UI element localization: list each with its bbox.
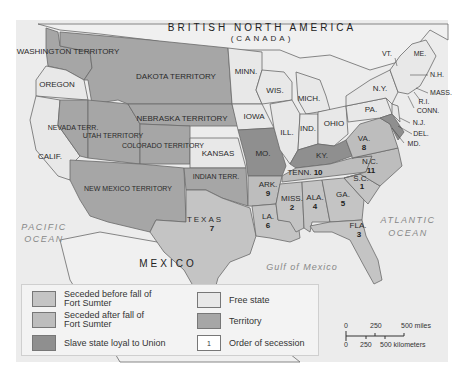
label-wisconsin: WIS. [266,86,283,95]
label-missouri: MO. [255,149,270,158]
label-nevada: NEVADA TERR. [48,124,99,131]
legend-label: Fort Sumter [64,319,112,329]
legend-label: Territory [229,317,262,326]
label-tennessee: TENN. 10 [287,168,323,177]
pacific-label-1: PACIFIC [21,222,66,232]
label-mississippi: MISS. [281,194,303,203]
label-indiana: IND. [300,124,316,133]
legend-item-slave-loyal: Slave state loyal to Union [32,335,166,351]
label-michigan: MICH. [298,94,321,103]
legend-swatch-seceded-after [32,312,56,328]
label-washington: WASHINGTON TERRITORY [17,47,120,56]
label-connecticut: CONN. [417,107,440,114]
heading-north-sub: (CANADA) [231,34,294,43]
region-minnesota [228,48,262,104]
pacific-label-2: OCEAN [24,234,64,244]
label-pennsylvania: PA. [365,105,377,114]
order-georgia: 5 [341,199,346,208]
legend-swatch-seceded-before [32,291,56,307]
label-new-hampshire: N.H. [430,71,444,78]
scale-km-0: 0 [344,341,348,348]
label-texas: TEXAS [187,215,223,224]
label-minnesota: MINN. [235,67,258,76]
label-california: CALIF. [38,152,62,161]
order-arkansas: 9 [266,189,271,198]
region-florida [310,220,382,284]
scale-bar: 0 250 500 miles 0 250 500 kilometers [340,322,450,352]
label-nebraska: NEBRASKA TERRITORY [136,114,228,123]
label-dakota: DAKOTA TERRITORY [136,72,217,81]
scale-miles-500: 500 miles [401,322,431,329]
label-new-jersey: N.J. [413,119,426,126]
label-utah: UTAH TERRITORY [83,132,144,139]
label-alabama: ALA. [306,193,323,202]
label-new-mexico: NEW MEXICO TERRITORY [84,185,172,192]
label-oregon: OREGON [39,80,75,89]
legend-label: Order of secession [229,339,305,348]
order-texas: 7 [210,224,215,233]
legend-item-free-state: Free state [197,292,270,308]
order-alabama: 4 [313,202,318,211]
atlantic-label-1: ATLANTIC [380,215,436,225]
label-new-york: N.Y. [373,84,388,93]
atlantic-label-2: OCEAN [388,228,428,238]
label-ohio: OHIO [324,119,344,128]
label-arkansas: ARK. [259,180,278,189]
label-massachusetts: MASS. [430,89,452,96]
legend-label: Free state [229,296,270,305]
label-indian-territory: INDIAN TERR. [193,173,240,180]
order-virginia: 8 [362,143,367,152]
label-colorado: COLORADO TERRITORY [122,142,204,149]
label-illinois: ILL. [280,128,293,137]
label-kentucky: KY. [316,151,328,160]
legend-swatch-free-state [197,292,221,308]
gulf-label: Gulf of Mexico [266,262,338,272]
label-north-carolina: N.C. [362,157,378,166]
region-michigan [296,72,330,114]
scale-miles-250: 250 [370,322,382,329]
order-south-carolina: 1 [360,182,365,191]
legend-swatch-slave-loyal [32,335,56,351]
secession-map: BRITISH NORTH AMERICA (CANADA) MEXICO PA… [0,0,462,378]
label-georgia: GA. [336,190,350,199]
label-virginia: VA. [358,134,370,143]
legend-swatch-order: 1 [197,335,221,351]
legend-item-seceded-after: Seceded after fall ofFort Sumter [32,311,144,329]
legend-item-territory: Territory [197,313,262,329]
label-vermont: VT. [382,50,392,57]
label-iowa: IOWA [243,112,265,121]
label-florida: FLA. [350,221,367,230]
legend-label: Fort Sumter [64,298,112,308]
label-louisiana: LA. [262,212,274,221]
legend-item-seceded-before: Seceded before fall ofFort Sumter [32,290,152,308]
label-maryland: MD. [408,140,421,147]
label-delaware: DEL. [413,130,429,137]
scale-km-500: 500 kilometers [380,341,426,348]
order-north-carolina: 11 [367,166,376,175]
map-legend: Seceded before fall ofFort Sumter Secede… [21,284,319,356]
label-maine: ME. [414,50,427,57]
order-louisiana: 6 [266,221,271,230]
label-rhode-island: R.I. [419,98,430,105]
order-florida: 3 [357,230,362,239]
heading-mexico: MEXICO [139,258,196,269]
scale-km-250: 250 [360,341,372,348]
legend-label: Slave state loyal to Union [64,339,166,348]
scale-miles-0: 0 [344,322,348,329]
legend-item-order: 1 Order of secession [197,335,305,351]
label-kansas: KANSAS [202,149,234,158]
heading-north: BRITISH NORTH AMERICA [168,22,356,33]
order-mississippi: 2 [290,203,295,212]
legend-swatch-territory [197,313,221,329]
